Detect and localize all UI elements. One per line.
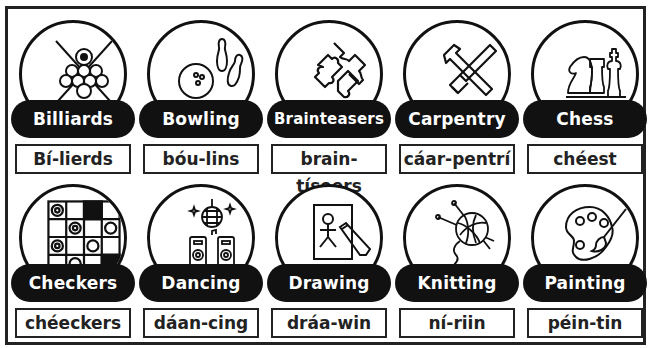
pronunciation-box: chéeckers	[15, 308, 131, 338]
card-painting: Painting péin-tin	[523, 184, 647, 344]
pronunciation-box: ní-riin	[399, 308, 515, 338]
yarn-icon	[432, 199, 504, 271]
disco-icon	[176, 199, 248, 271]
pronunciation-box: péin-tin	[527, 308, 643, 338]
card-bowling: Bowling bóu-lins	[139, 20, 263, 180]
tools-icon	[432, 35, 504, 107]
activity-label: Brainteasers	[267, 100, 391, 138]
bowling-icon	[176, 35, 248, 107]
card-billiards: Billiards Bí-lierds	[11, 20, 135, 180]
activity-label: Knitting	[395, 264, 519, 302]
activity-label: Checkers	[11, 264, 135, 302]
pronunciation-box: cáar-pentrí	[399, 144, 515, 174]
chess-icon	[560, 35, 632, 107]
activity-label: Billiards	[11, 100, 135, 138]
pronunciation-box: Bí-lierds	[15, 144, 131, 174]
drawing-icon	[304, 199, 376, 271]
card-dancing: Dancing dáan-cing	[139, 184, 263, 344]
pronunciation-box: bóu-lins	[143, 144, 259, 174]
pronunciation-box: brain-tíseers	[271, 144, 387, 174]
activity-label: Dancing	[139, 264, 263, 302]
card-checkers: Checkers chéeckers	[11, 184, 135, 344]
activity-label: Painting	[523, 264, 647, 302]
card-drawing: Drawing dráa-win	[267, 184, 391, 344]
pronunciation-box: chéest	[527, 144, 643, 174]
activity-label: Carpentry	[395, 100, 519, 138]
activity-label: Chess	[523, 100, 647, 138]
card-chess: Chess chéest	[523, 20, 647, 180]
pronunciation-box: dáan-cing	[143, 308, 259, 338]
activity-label: Bowling	[139, 100, 263, 138]
palette-icon	[560, 199, 632, 271]
card-carpentry: Carpentry cáar-pentrí	[395, 20, 519, 180]
card-knitting: Knitting ní-riin	[395, 184, 519, 344]
billiards-icon	[48, 35, 120, 107]
pronunciation-box: dráa-win	[271, 308, 387, 338]
card-brainteasers: Brainteasers brain-tíseers	[267, 20, 391, 180]
puzzle-icon	[304, 35, 376, 107]
activity-label: Drawing	[267, 264, 391, 302]
